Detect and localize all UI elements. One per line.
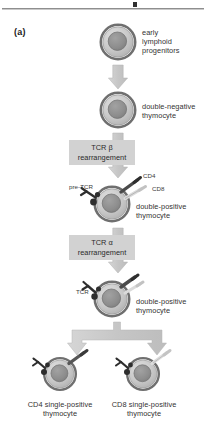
caption-elp-line3: progenitors xyxy=(142,46,204,55)
thymocyte-development-figure: (a) xyxy=(0,0,206,431)
caption-cd8sp-line1: CD8 single-positive xyxy=(94,400,194,409)
process-tcr-alpha-line1: TCR α xyxy=(78,238,126,247)
caption-double-positive-thymocyte-1: double-positive thymocyte xyxy=(136,202,204,220)
caption-dn-line2: thymocyte xyxy=(142,111,206,120)
caption-cd8-single-positive-thymocyte: CD8 single-positive thymocyte xyxy=(94,400,194,418)
caption-dp2-line2: thymocyte xyxy=(136,306,204,315)
label-cd8: CD8 xyxy=(152,185,165,192)
caption-elp-line1: early xyxy=(142,28,204,37)
branch-arrow-icon xyxy=(68,322,167,355)
caption-dp1-line1: double-positive xyxy=(136,202,204,211)
caption-dp1-line2: thymocyte xyxy=(136,211,204,220)
caption-double-negative-thymocyte: double-negative thymocyte xyxy=(142,102,206,120)
caption-early-lymphoid-progenitors: early lymphoid progenitors xyxy=(142,28,204,56)
caption-elp-line2: lymphoid xyxy=(142,37,204,46)
cell-icon-cd4-single-positive-thymocyte xyxy=(33,351,87,391)
caption-double-positive-thymocyte-2: double-positive thymocyte xyxy=(136,297,204,315)
process-tcr-beta-line2: rearrangement xyxy=(78,153,126,162)
process-tcr-alpha-line2: rearrangement xyxy=(78,248,126,257)
label-tcr: TCR xyxy=(76,288,89,295)
label-cd4: CD4 xyxy=(143,172,156,179)
label-pre-tcr: pre-TCR xyxy=(69,183,93,190)
process-box-tcr-alpha-rearrangement: TCR α rearrangement xyxy=(69,235,135,260)
process-box-tcr-beta-rearrangement: TCR β rearrangement xyxy=(69,140,135,165)
arrow-down-icon-1 xyxy=(108,65,127,89)
cell-icon-double-negative-thymocyte xyxy=(101,93,136,128)
cell-icon-double-positive-thymocyte-2 xyxy=(83,275,144,317)
cell-icon-cd8-single-positive-thymocyte xyxy=(116,351,170,391)
caption-cd8sp-line2: thymocyte xyxy=(94,409,194,418)
cell-icon-early-lymphoid-progenitors xyxy=(101,25,136,60)
caption-dn-line1: double-negative xyxy=(142,102,206,111)
process-tcr-beta-line1: TCR β xyxy=(78,143,126,152)
caption-dp2-line1: double-positive xyxy=(136,297,204,306)
